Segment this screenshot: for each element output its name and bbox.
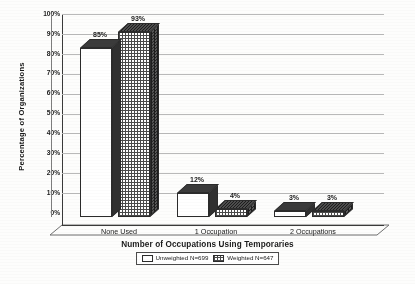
plot-area: 85%93%12%4%3%3% [62, 14, 384, 226]
bar-none-used-check[interactable] [118, 32, 150, 217]
y-axis-line [62, 14, 63, 226]
gridline-100 [62, 14, 384, 15]
chart-legend: Unweighted N=699Weighted N=647 [136, 252, 280, 265]
bar-2-occupations-check[interactable] [312, 211, 344, 217]
y-axis-tick-30: 30% [30, 150, 60, 157]
y-axis-tick-90: 90% [30, 31, 60, 38]
x-category-1-occupation: 1 Occupation [171, 228, 261, 235]
bar-2-occupations-plain[interactable] [274, 211, 306, 217]
bar-value-label: 3% [312, 194, 352, 201]
bar-front-face [274, 211, 306, 217]
bar-chart-figure: Percentage of Organizations 100%90%80%70… [0, 0, 415, 284]
y-axis-tick-10: 10% [30, 190, 60, 197]
chart-depth-wall [51, 14, 52, 217]
y-axis-tick-40: 40% [30, 130, 60, 137]
y-axis-tick-100: 100% [30, 11, 60, 18]
y-axis-tick-labels: 100%90%80%70%60%50%40%30%20%10%0% [28, 0, 60, 240]
y-axis-tick-50: 50% [30, 110, 60, 117]
bar-value-label: 93% [118, 15, 158, 22]
x-axis-title: Number of Occupations Using Temporaries [0, 240, 415, 249]
x-axis-line [62, 225, 384, 226]
bar-front-face [312, 211, 344, 217]
bar-side-face [150, 24, 159, 217]
bar-front-face [215, 209, 247, 217]
y-axis-title: Percentage of Organizations [14, 0, 28, 232]
legend-swatch-plain [142, 255, 153, 262]
bar-front-face [80, 48, 112, 217]
x-axis-category-labels: None Used1 Occupation2 Occupations [62, 228, 392, 240]
y-axis-tick-20: 20% [30, 170, 60, 177]
bar-value-label: 85% [80, 31, 120, 38]
y-axis-tick-80: 80% [30, 51, 60, 58]
bar-value-label: 4% [215, 192, 255, 199]
bar-front-face [177, 193, 209, 217]
legend-label: Unweighted N=699 [156, 255, 209, 261]
y-axis-tick-60: 60% [30, 90, 60, 97]
bar-side-face [112, 40, 121, 217]
x-category-none-used: None Used [74, 228, 164, 235]
x-category-2-occupations: 2 Occupations [268, 228, 358, 235]
y-axis-title-text: Percentage of Organizations [17, 62, 26, 170]
bar-front-face [118, 32, 150, 217]
legend-item-2[interactable]: Weighted N=647 [213, 255, 273, 262]
bar-none-used-plain[interactable] [80, 48, 112, 217]
legend-item-1[interactable]: Unweighted N=699 [142, 255, 209, 262]
y-axis-tick-70: 70% [30, 70, 60, 77]
bar-1-occupation-plain[interactable] [177, 193, 209, 217]
bar-value-label: 3% [274, 194, 314, 201]
legend-swatch-check [213, 255, 224, 262]
bar-value-label: 12% [177, 176, 217, 183]
bar-1-occupation-check[interactable] [215, 209, 247, 217]
legend-label: Weighted N=647 [227, 255, 273, 261]
